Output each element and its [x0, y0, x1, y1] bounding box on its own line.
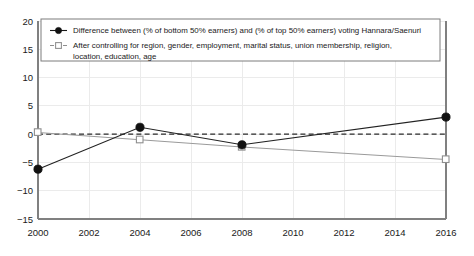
legend-label-controlled-line-2: location, education, age: [73, 52, 157, 61]
legend-label-controlled-line-1: After controlling for region, gender, em…: [73, 41, 392, 50]
data-point-controlled-2004: [136, 136, 143, 143]
y-tick-10: 10: [22, 72, 33, 83]
line-chart: 20 15 10 5 0 −5 −10 −15 2000 2002 2004 2…: [0, 0, 474, 256]
chart-container: 20 15 10 5 0 −5 −10 −15 2000 2002 2004 2…: [0, 0, 474, 256]
x-tick-2006: 2006: [180, 227, 201, 238]
data-point-difference-2008: [238, 141, 246, 149]
y-tick-0: 0: [28, 129, 33, 140]
chart-legend: Difference between (% of bottom 50% earn…: [41, 19, 440, 61]
data-point-difference-2016: [442, 113, 450, 121]
data-point-difference-2004: [136, 123, 144, 131]
y-tick-15: 15: [22, 44, 33, 55]
legend-marker-filled-circle-icon: [55, 27, 61, 33]
y-tick-20: 20: [22, 16, 33, 27]
x-tick-2016: 2016: [435, 227, 456, 238]
legend-marker-hollow-square-icon: [56, 43, 62, 49]
x-tick-2004: 2004: [129, 227, 150, 238]
y-tick-neg15: −15: [17, 214, 33, 225]
y-axis-tick-labels: 20 15 10 5 0 −5 −10 −15: [17, 16, 33, 225]
x-axis-tick-labels: 2000 2002 2004 2006 2008 2010 2012 2014 …: [27, 227, 456, 238]
legend-entry-difference[interactable]: Difference between (% of bottom 50% earn…: [50, 26, 421, 35]
y-tick-neg10: −10: [17, 185, 33, 196]
data-point-controlled-2016: [442, 156, 449, 163]
y-tick-5: 5: [28, 100, 33, 111]
x-tick-2012: 2012: [333, 227, 354, 238]
x-tick-2000: 2000: [27, 227, 48, 238]
data-point-controlled-2000: [34, 129, 41, 136]
x-tick-2010: 2010: [282, 227, 303, 238]
x-tick-2014: 2014: [384, 227, 405, 238]
legend-label-difference: Difference between (% of bottom 50% earn…: [73, 26, 421, 35]
y-tick-neg5: −5: [22, 157, 33, 168]
x-tick-2008: 2008: [231, 227, 252, 238]
x-tick-2002: 2002: [78, 227, 99, 238]
data-point-difference-2000: [34, 165, 42, 173]
